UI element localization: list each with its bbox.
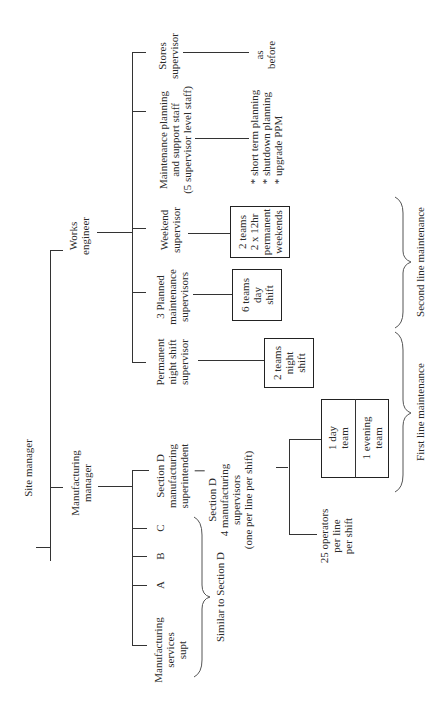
- as-before-label: as before: [253, 41, 277, 69]
- day-team-label: 1 day team: [326, 426, 350, 450]
- planned-tick: [132, 292, 146, 293]
- weekend-supervisor-label: Weekend supervisor: [158, 207, 182, 253]
- operators-label: 25 operators per line per shift: [318, 509, 354, 564]
- operators-tick: [289, 534, 317, 535]
- section-b-label: B: [154, 552, 166, 559]
- site-manager-label: Site manager: [22, 439, 34, 497]
- weekend-tick: [132, 228, 146, 229]
- shift-teams-divider: [355, 399, 356, 478]
- night-connector: [198, 360, 264, 361]
- weekend-connector: [188, 233, 230, 234]
- supervisors-children-trunk: [289, 439, 290, 534]
- section-d-tick: [132, 470, 149, 471]
- second-line-label: Second line maintenance: [414, 207, 426, 317]
- maint-planning-tick: [132, 111, 146, 112]
- section-c-label: C: [154, 524, 166, 531]
- site-manager-trunk: [50, 250, 51, 561]
- second-line-brace: [393, 195, 415, 330]
- org-chart: Site manager Works engineer Stores super…: [0, 0, 439, 709]
- stores-supervisor-label: Stores supervisor: [156, 33, 180, 79]
- stores-tick: [132, 52, 146, 53]
- mfg-manager-label: Manufacturing manager: [69, 450, 93, 515]
- mfg-manager-children-trunk: [132, 470, 133, 646]
- maint-planning-label: Maintenance planning and support staff (…: [157, 86, 193, 194]
- site-manager-connector: [36, 547, 50, 548]
- maint-planning-connector: [195, 138, 249, 139]
- stores-connector: [183, 52, 249, 53]
- similar-to-d-label: Similar to Section D: [214, 552, 226, 642]
- first-line-brace: [393, 330, 415, 495]
- section-d-connector: [195, 470, 205, 471]
- section-c-tick: [132, 528, 147, 529]
- mfg-services-label: Manufacturing services supt: [152, 617, 188, 682]
- works-engineer-connector: [97, 232, 132, 233]
- mfg-manager-connector: [98, 486, 132, 487]
- works-engineer-branch: [50, 250, 63, 251]
- night-team-label: 2 teams night shift: [271, 346, 307, 380]
- planned-connector: [193, 294, 232, 295]
- night-tick: [132, 362, 146, 363]
- night-shift-supervisor-label: Permanent night shift supervisor: [154, 338, 190, 385]
- planned-maint-label: 3 Planned maintenance supervisors: [154, 269, 190, 325]
- mfg-services-tick: [132, 645, 147, 646]
- teams-tick: [289, 439, 321, 440]
- evening-team-label: 1 evening team: [360, 416, 384, 459]
- section-d-supt-label: Section D manufacturing superintendent: [154, 444, 190, 509]
- section-d-supervisors-label: Section D 4 manufacturing supervisors (o…: [206, 451, 254, 549]
- section-a-tick: [132, 585, 147, 586]
- planning-notes: * short term planning * shutdown plannin…: [248, 90, 284, 184]
- weekend-team-label: 2 teams 2 x 12hr permanent weekends: [236, 209, 284, 255]
- section-a-label: A: [154, 581, 166, 589]
- works-engineer-label: Works engineer: [67, 217, 91, 255]
- mfg-manager-branch: [50, 487, 63, 488]
- section-b-tick: [132, 556, 147, 557]
- first-line-label: First line maintenance: [414, 363, 426, 461]
- planned-team-label: 6 teams day shift: [239, 278, 275, 312]
- works-engineer-children-trunk: [132, 52, 133, 363]
- supervisors-connector: [276, 467, 288, 468]
